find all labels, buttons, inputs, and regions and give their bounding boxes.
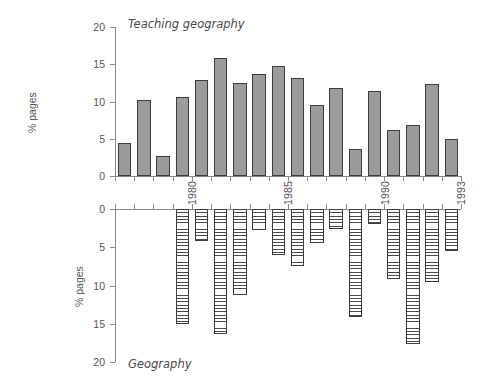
bar — [272, 209, 285, 255]
bar — [368, 209, 381, 224]
bar — [310, 209, 323, 243]
figure-canvas: Teaching geography 05101520 198019851990… — [0, 0, 480, 385]
bar — [233, 209, 246, 295]
bar — [252, 209, 265, 230]
bar — [387, 209, 400, 279]
bar — [291, 209, 304, 266]
bar — [445, 209, 458, 251]
plot-area-bottom — [0, 0, 480, 385]
bar — [214, 209, 227, 334]
bar — [406, 209, 419, 344]
bar — [349, 209, 362, 317]
bar — [425, 209, 438, 282]
bar — [329, 209, 342, 229]
bar — [176, 209, 189, 324]
bar — [195, 209, 208, 241]
